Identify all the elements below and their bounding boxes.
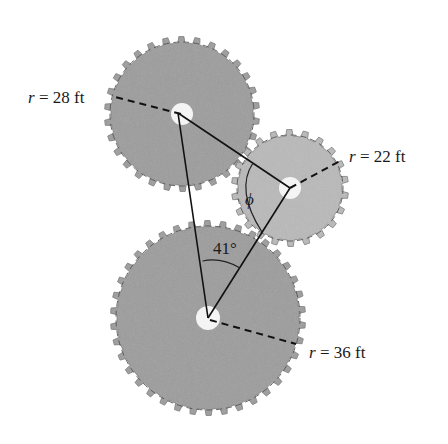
label-angle-phi: ϕ <box>245 190 254 209</box>
label-angle-41: 41° <box>213 239 237 258</box>
label-radius-bottom: r = 36 ft <box>309 343 366 362</box>
label-radius-right: r = 22 ft <box>349 147 406 166</box>
label-radius-top: r = 28 ft <box>28 88 85 107</box>
gear-diagram: r = 28 ft r = 22 ft r = 36 ft 41° ϕ <box>0 0 448 444</box>
